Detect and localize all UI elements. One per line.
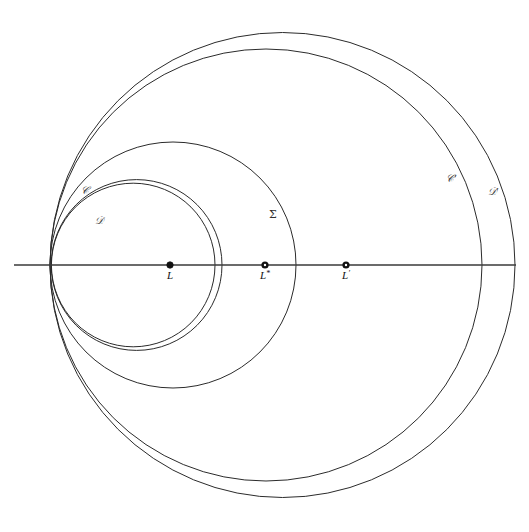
point-L: L xyxy=(166,262,173,281)
label-circle-D-prime: 𝒟′ xyxy=(488,186,499,197)
point-marker-L-star xyxy=(263,263,268,268)
point-label-L: L xyxy=(166,269,173,281)
figure-root: LL*L′ 𝒟𝒞Σ𝒞′𝒟′ xyxy=(0,0,529,532)
point-marker-L-prime xyxy=(344,263,349,268)
point-marker-L xyxy=(167,262,173,268)
label-circle-C-prime: 𝒞′ xyxy=(446,173,457,184)
label-circle-Sigma: Σ xyxy=(269,208,277,221)
geometry-diagram: LL*L′ 𝒟𝒞Σ𝒞′𝒟′ xyxy=(0,0,529,532)
